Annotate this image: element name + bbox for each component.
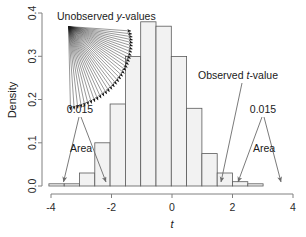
x-tick-label-0: 0 [169, 201, 175, 213]
fan-ray [69, 27, 102, 99]
x-tick-label--2: -2 [107, 201, 116, 213]
right-tail-probability-label: 0.015 [250, 103, 276, 115]
bar-bin-2 [64, 184, 79, 186]
bar-bin-13 [233, 182, 248, 186]
bar-bin-9 [171, 56, 186, 186]
x-tick-label-4: 4 [290, 201, 296, 213]
y-tick-label-0.0: 0.0 [26, 179, 38, 194]
observed-t-value-label: Observed t-value [198, 69, 278, 81]
bar-bin-5 [110, 104, 125, 186]
x-tick-label--4: -4 [46, 201, 55, 213]
unobserved-values-annotation: Unobserved y-values [57, 10, 156, 22]
y-tick-label-0.1: 0.1 [26, 135, 38, 150]
x-tick-label-2: 2 [230, 201, 236, 213]
y-tick-label-0.4: 0.4 [26, 6, 38, 21]
bar-bin-10 [187, 108, 202, 186]
bar-bin-6 [125, 56, 140, 186]
bar-bin-11 [202, 154, 217, 186]
y-tick-label-0.2: 0.2 [26, 92, 38, 107]
bar-bin-4 [95, 143, 110, 186]
unobserved-y-values-label: Unobserved y-values [57, 10, 156, 22]
histogram-figure: 0.4 0.3 0.2 0.1 0.0 Density -4 -2 0 2 4 … [0, 0, 306, 237]
left-area-label: Area [70, 142, 92, 154]
y-axis-title: Density [6, 81, 18, 118]
y-tick-label-0.3: 0.3 [26, 49, 38, 64]
left-tail-probability-label: 0.015 [67, 103, 93, 115]
x-axis-title: t [170, 218, 174, 230]
bar-bin-14 [248, 184, 263, 186]
y-axis: 0.4 0.3 0.2 0.1 0.0 Density [6, 6, 42, 194]
observed-t-value-arrow [221, 83, 242, 182]
bar-bin-7 [141, 22, 156, 186]
right-tail-annotation: 0.015 Area [238, 103, 281, 182]
x-axis: -4 -2 0 2 4 t [46, 194, 296, 230]
bar-bin-8 [156, 26, 171, 186]
fan-ray [69, 27, 132, 56]
fan-ray [69, 27, 130, 62]
unobserved-label-prefix: Unobserved [57, 10, 117, 22]
t-distribution-histogram-plot: 0.4 0.3 0.2 0.1 0.0 Density -4 -2 0 2 4 … [0, 0, 306, 237]
right-area-label: Area [253, 142, 275, 154]
fan-ray [69, 27, 129, 65]
unobserved-label-suffix: -values [122, 10, 156, 22]
unobserved-values-fan [69, 27, 133, 111]
bar-bin-12 [217, 173, 232, 186]
bar-bin-1 [49, 184, 64, 186]
observed-label-prefix: Observed [198, 69, 246, 81]
bar-bin-3 [80, 173, 95, 186]
observed-label-suffix: -value [249, 69, 278, 81]
